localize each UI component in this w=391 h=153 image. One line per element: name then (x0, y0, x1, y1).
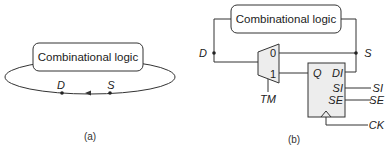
node-d-dot-a (60, 91, 64, 95)
arrow-left-icon (85, 91, 91, 96)
panel-a: Combinational logic D S (a) (5, 43, 175, 142)
ext-si-label: SI (373, 82, 383, 94)
caption-a: (a) (84, 131, 96, 142)
node-s-label-a: S (107, 79, 115, 91)
ff-q-label: Q (313, 67, 322, 79)
mux-input-0-label: 0 (270, 47, 276, 59)
combinational-logic-label-b: Combinational logic (236, 13, 337, 25)
ff-di-label: DI (332, 67, 343, 79)
node-s-dot-b (354, 51, 358, 55)
ff-se-label: SE (328, 94, 343, 106)
panel-b: Combinational logic D S 0 1 TM Q DI SI S… (199, 5, 385, 145)
diagram-canvas: Combinational logic D S (a) Combinationa… (0, 0, 391, 153)
mux-select-tm-label: TM (260, 93, 277, 105)
ext-ck-label: CK (369, 119, 385, 131)
ff-si-label: SI (333, 82, 343, 94)
node-d-label-b: D (199, 47, 207, 59)
node-s-label-b: S (364, 47, 372, 59)
mux-input-1-label: 1 (270, 68, 276, 80)
caption-b: (b) (288, 134, 300, 145)
node-d-label-a: D (57, 79, 65, 91)
node-s-dot-a (108, 91, 112, 95)
ext-se-label: SE (369, 94, 384, 106)
combinational-logic-label-a: Combinational logic (38, 51, 139, 63)
node-d-dot-b (212, 51, 216, 55)
wire-ck (326, 117, 368, 125)
